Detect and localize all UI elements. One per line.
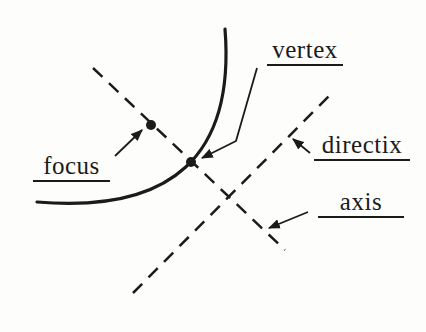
axis-leader-arrow: [269, 212, 308, 228]
vertex-leader-arrow: [202, 68, 257, 158]
focus-label: focus: [33, 153, 110, 182]
focus-leader-arrow: [115, 130, 142, 156]
focus-point: [146, 120, 156, 130]
vertex-label: vertex: [267, 37, 343, 66]
directrix-leader-arrow: [293, 139, 310, 153]
directrix-dashed-line: [133, 92, 333, 293]
directrix-label: directix: [314, 132, 410, 161]
parabola-diagram: vertex focus directix axis: [0, 0, 426, 332]
vertex-point: [186, 157, 196, 167]
axis-label: axis: [318, 189, 404, 218]
